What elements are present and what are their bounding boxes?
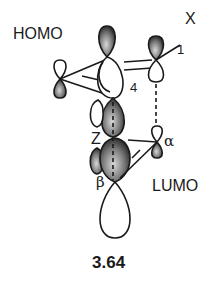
atom-4-label: 4 <box>130 80 137 95</box>
atom-1-label: 1 <box>177 42 184 57</box>
alpha-label: α <box>164 132 174 150</box>
lumo-label: LUMO <box>152 177 198 195</box>
orbital-drawing <box>0 0 220 293</box>
double-bond-line <box>124 68 152 70</box>
figure-caption: 3.64 <box>92 253 125 273</box>
z-upper-lobe <box>90 100 103 127</box>
bond-line <box>128 140 157 142</box>
orbital-diagram: HOMO X 1 4 Z α β LUMO 3.64 <box>0 0 220 293</box>
z-group-label: Z <box>91 130 101 148</box>
bond-line <box>132 150 140 158</box>
homo-label: HOMO <box>13 25 63 43</box>
c1-p-orbital <box>149 36 164 82</box>
double-bond-line <box>124 60 152 62</box>
substituent-x-label: X <box>185 10 196 28</box>
beta-label: β <box>96 173 105 191</box>
